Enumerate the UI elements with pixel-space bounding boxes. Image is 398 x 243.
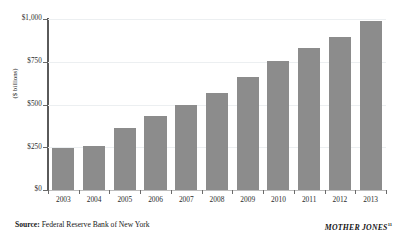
x-tick-label-2012: 2012 [325, 196, 356, 204]
x-tick-label-2007: 2007 [171, 196, 202, 204]
bar-2013 [360, 21, 382, 190]
x-tick-label-2003: 2003 [48, 196, 79, 204]
y-tick-label-1000: $1,000 [0, 15, 42, 22]
bar-2009 [237, 77, 259, 190]
x-tick-label-2008: 2008 [202, 196, 233, 204]
x-tick-mark [79, 190, 80, 194]
bar-slot [294, 19, 325, 190]
y-tick-label-500: $500 [0, 101, 42, 108]
bar-2007 [175, 105, 197, 191]
bar-slot [109, 19, 140, 190]
publisher-attribution: MOTHER JONES11 [325, 220, 392, 232]
x-tick-mark [355, 190, 356, 194]
x-tick-label-2005: 2005 [109, 196, 140, 204]
bar-slot [48, 19, 79, 190]
chart-figure: ($ billions) $0$250$500$750$1,000 200320… [0, 0, 398, 243]
bar-2008 [206, 93, 228, 190]
x-tick-label-2010: 2010 [263, 196, 294, 204]
publisher-name: MOTHER JONES [325, 223, 388, 232]
x-tick-mark [386, 190, 387, 194]
x-tick-mark [263, 190, 264, 194]
bar-2012 [329, 37, 351, 190]
bar-slot [355, 19, 386, 190]
bar-2006 [144, 116, 166, 190]
x-tick-label-2006: 2006 [140, 196, 171, 204]
bar-slot [140, 19, 171, 190]
x-tick-mark [109, 190, 110, 194]
footnote-marker: 11 [388, 222, 392, 227]
bar-slot [263, 19, 294, 190]
gridline-0 [48, 190, 386, 191]
x-tick-mark [171, 190, 172, 194]
bar-2005 [114, 128, 136, 190]
source-text: Federal Reserve Bank of New York [40, 220, 150, 229]
x-tick-mark [232, 190, 233, 194]
bar-slot [232, 19, 263, 190]
x-tick-mark [294, 190, 295, 194]
bar-slot [202, 19, 233, 190]
x-tick-mark [202, 190, 203, 194]
y-tick-label-250: $250 [0, 144, 42, 151]
x-tick-label-2011: 2011 [294, 196, 325, 204]
x-tick-label-2004: 2004 [79, 196, 110, 204]
x-tick-label-2013: 2013 [355, 196, 386, 204]
y-tick-label-750: $750 [0, 58, 42, 65]
bars-layer [48, 19, 386, 190]
x-tick-label-2009: 2009 [232, 196, 263, 204]
chart-footer: Source: Federal Reserve Bank of New York… [0, 220, 398, 240]
bar-2003 [52, 148, 74, 190]
source-label: Source: [15, 220, 40, 229]
x-tick-mark [325, 190, 326, 194]
x-tick-mark [48, 190, 49, 194]
bar-2011 [298, 48, 320, 190]
y-tick-label-0: $0 [0, 186, 42, 193]
bar-slot [79, 19, 110, 190]
bar-2004 [83, 146, 105, 190]
bar-2010 [267, 61, 289, 190]
x-tick-mark [140, 190, 141, 194]
bar-slot [171, 19, 202, 190]
source-note: Source: Federal Reserve Bank of New York [15, 220, 150, 229]
bar-slot [325, 19, 356, 190]
